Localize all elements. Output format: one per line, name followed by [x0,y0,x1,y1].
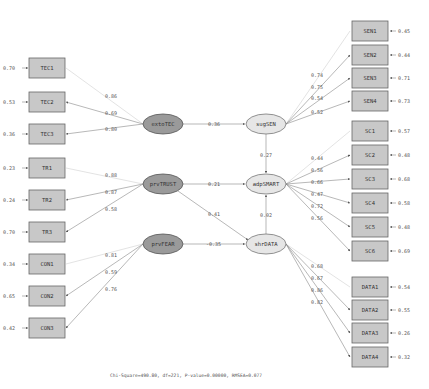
latent-shrdata: shrDATA [246,234,286,254]
error-sen1: 0.45 [398,28,410,34]
loading-data2: 0.67 [311,275,323,281]
svg-text:DATA4: DATA4 [362,354,379,360]
error-tr1: 0.23 [3,165,15,171]
indicator-sen1: SEN1 [352,21,388,41]
svg-text:shrDATA: shrDATA [254,241,278,247]
loading-tec2: 0.69 [105,110,117,116]
indicator-tec2: TEC2 [29,92,65,112]
error-sc6: 0.69 [398,248,410,254]
svg-text:SEN2: SEN2 [363,52,376,58]
loading-data1: 0.68 [311,263,323,269]
svg-text:TR3: TR3 [42,229,52,235]
svg-text:sugSEN: sugSEN [256,121,276,128]
svg-text:extoTEC: extoTEC [151,121,174,127]
latent-sugsen: sugSEN [246,114,286,134]
indicator-tec3: TEC3 [29,124,65,144]
error-data1: 0.54 [398,284,410,290]
error-sc1: 0.57 [398,128,410,134]
error-sc3: 0.68 [398,176,410,182]
error-tr3: 0.70 [3,229,15,235]
error-data3: 0.26 [398,330,410,336]
svg-text:DATA2: DATA2 [362,307,379,313]
fit-statistics: Chi-Square=490.80, df=221, P-value=0.000… [110,373,262,378]
coef-prvfear-shrdata: -0.35 [206,241,221,247]
indicator-data2: DATA2 [352,300,388,320]
loading-tec3: 0.80 [105,126,117,132]
coef-sugsen-adpsmart: 0.27 [260,152,272,158]
coef-extotec-sugsen: 0.36 [208,121,220,127]
loading-data4: 0.82 [311,299,323,305]
sem-path-diagram: TEC1 TEC2 TEC3 TR1 TR2 TR3 CON1 CON2 CON… [0,0,429,389]
indicator-sc2: SC2 [352,145,388,165]
svg-text:SC1: SC1 [365,128,375,134]
indicator-con1: CON1 [29,254,65,274]
indicator-data4: DATA4 [352,347,388,367]
error-sc4: 0.58 [398,200,410,206]
indicator-tec1: TEC1 [29,58,65,78]
loading-sen1: 0.74 [311,72,323,78]
error-sc2: 0.48 [398,152,410,158]
loading-sc1: 0.44 [311,155,323,161]
error-sen3: 0.71 [398,75,410,81]
svg-text:TEC1: TEC1 [40,65,53,71]
indicator-sc3: SC3 [352,169,388,189]
indicator-data1: DATA1 [352,277,388,297]
svg-text:adpSMART: adpSMART [253,181,280,188]
indicator-sc6: SC6 [352,241,388,261]
error-data2: 0.55 [398,307,410,313]
error-tec1: 0.70 [3,65,15,71]
loading-sc5: 0.72 [311,203,323,209]
svg-text:CON2: CON2 [40,293,53,299]
coef-prvtrust-shrdata: 0.41 [208,211,220,217]
error-con3: 0.42 [3,325,15,331]
svg-text:SEN4: SEN4 [363,98,377,104]
svg-text:CON1: CON1 [40,261,53,267]
loading-sen4: 0.52 [311,109,323,115]
svg-text:TEC2: TEC2 [40,99,53,105]
loading-sc6: 0.56 [311,215,323,221]
latent-extotec: extoTEC [143,114,183,134]
latent-prvfear: prvFEAR [143,234,183,254]
indicator-tr3: TR3 [29,222,65,242]
error-tr2: 0.24 [3,197,15,203]
loading-tr3: 0.58 [105,206,117,212]
svg-text:prvTRUST: prvTRUST [150,181,177,188]
loading-con3: 0.76 [105,286,117,292]
error-con1: 0.34 [3,261,15,267]
svg-text:SC4: SC4 [365,200,376,206]
latent-adpsmart: adpSMART [246,174,286,194]
loading-sen3: 0.54 [311,95,323,101]
indicator-con2: CON2 [29,286,65,306]
indicator-data3: DATA3 [352,323,388,343]
loading-sc2: 0.56 [311,167,323,173]
svg-text:CON3: CON3 [40,325,53,331]
loading-sc4: 0.47 [311,191,323,197]
error-sen4: 0.73 [398,98,410,104]
indicator-tr2: TR2 [29,190,65,210]
error-sen2: 0.44 [398,52,410,58]
loading-sc3: 0.66 [311,179,323,185]
coef-shrdata-adpsmart: 0.02 [260,212,272,218]
loading-tr1: 0.88 [105,172,117,178]
loading-sen2: 0.75 [311,84,323,90]
indicator-sc4: SC4 [352,193,388,213]
svg-text:DATA1: DATA1 [362,284,379,290]
coef-prvtrust-adpsmart: 0.21 [208,181,220,187]
svg-text:TR2: TR2 [42,197,52,203]
svg-text:SEN1: SEN1 [363,28,376,34]
indicator-sen2: SEN2 [352,45,388,65]
svg-text:TR1: TR1 [42,165,52,171]
svg-text:SC5: SC5 [365,224,375,230]
indicator-sen4: SEN4 [352,91,388,111]
error-data4: 0.32 [398,354,410,360]
error-tec3: 0.36 [3,131,15,137]
loading-data3: 0.86 [311,287,323,293]
svg-text:DATA3: DATA3 [362,330,379,336]
right-error-arrows [390,31,396,357]
error-con2: 0.65 [3,293,15,299]
left-error-arrows [22,68,28,328]
svg-text:prvFEAR: prvFEAR [151,241,175,248]
indicator-con3: CON3 [29,318,65,338]
loading-con1: 0.81 [105,252,117,258]
indicator-sc1: SC1 [352,121,388,141]
